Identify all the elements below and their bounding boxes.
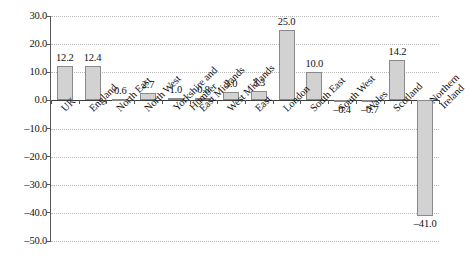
bar-value-label: 12.4 (84, 53, 102, 64)
bar-slot: 3.0 (217, 16, 245, 241)
bar-slot: 2.7 (134, 16, 162, 241)
y-axis-tick-label: –40.0 (24, 208, 47, 219)
bar-value-label: –41.0 (414, 219, 437, 230)
bar-slot: 0.8 (190, 16, 218, 241)
bar-slot: 3.3 (245, 16, 273, 241)
bar-slot: –0.7 (356, 16, 384, 241)
bar-slot: –0.4 (328, 16, 356, 241)
bar-value-label: 12.2 (56, 53, 74, 64)
bar-slot: 14.2 (384, 16, 412, 241)
bar-slot: 12.4 (79, 16, 107, 241)
y-axis-tick-label: 30.0 (29, 11, 47, 22)
y-axis-tick-label: 10.0 (29, 67, 47, 78)
bar-value-label: 14.2 (389, 47, 407, 58)
bar-slot: –41.0 (411, 16, 439, 241)
bar-value-label: 25.0 (278, 17, 296, 28)
bar-slot: 25.0 (273, 16, 301, 241)
bar-slot: 0.6 (106, 16, 134, 241)
bar-slot: 10.0 (300, 16, 328, 241)
gridline (51, 241, 439, 242)
bar-slot: 1.0 (162, 16, 190, 241)
bar[interactable] (279, 30, 295, 100)
y-axis-tick-label: –20.0 (24, 151, 47, 162)
y-axis-tick-label: –10.0 (24, 123, 47, 134)
category-tick-mark (79, 100, 80, 104)
y-axis-tick-label: 20.0 (29, 39, 47, 50)
category-tick-mark (51, 100, 52, 104)
bar[interactable] (57, 66, 73, 100)
bar-slot: 12.2 (51, 16, 79, 241)
bar-value-label: 10.0 (305, 59, 323, 70)
plot-area: 12.212.40.62.71.00.83.03.325.010.0–0.4–0… (51, 16, 439, 241)
y-axis-tick-label: –30.0 (24, 180, 47, 191)
y-axis-tick-label: –50.0 (24, 236, 47, 247)
